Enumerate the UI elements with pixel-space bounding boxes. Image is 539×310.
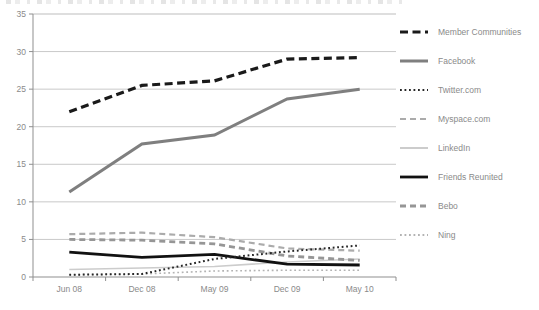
legend-swatch-linkedin-line	[399, 144, 429, 152]
y-tick-label: 20	[17, 122, 27, 132]
chart-legend: Member CommunitiesFacebookTwitter.comMys…	[399, 17, 539, 249]
legend-item-friends-reunited: Friends Reunited	[399, 162, 539, 191]
legend-item-member-communities: Member Communities	[399, 17, 539, 46]
legend-label: Twitter.com	[438, 85, 481, 95]
legend-label: LinkedIn	[438, 143, 470, 153]
y-tick-label: 30	[17, 47, 27, 57]
legend-swatch-ning-line	[399, 231, 429, 239]
legend-item-bebo: Bebo	[399, 191, 539, 220]
legend-item-twitter-com: Twitter.com	[399, 75, 539, 104]
x-tick-label: Dec 08	[128, 284, 155, 294]
legend-label: Member Communities	[438, 27, 521, 37]
y-axis-labels: 05101520253035	[17, 9, 27, 282]
y-tick-label: 35	[17, 9, 27, 19]
legend-swatch-facebook-line	[399, 57, 429, 65]
gridlines	[33, 14, 396, 239]
legend-label: Ning	[438, 230, 455, 240]
legend-item-linkedin: LinkedIn	[399, 133, 539, 162]
legend-swatch-bebo-line	[399, 202, 429, 210]
legend-label: Friends Reunited	[438, 172, 503, 182]
legend-item-facebook: Facebook	[399, 46, 539, 75]
legend-swatch-friends-reunited-line	[399, 173, 429, 181]
x-tick-label: May 10	[346, 284, 374, 294]
legend-item-myspace-com: Myspace.com	[399, 104, 539, 133]
y-tick-label: 0	[21, 272, 26, 282]
y-tick-label: 25	[17, 84, 27, 94]
legend-swatch-member-communities-line	[399, 28, 429, 36]
x-tick-label: Dec 09	[274, 284, 301, 294]
x-axis-labels: Jun 08Dec 08May 09Dec 09May 10	[57, 284, 374, 294]
y-tick-label: 10	[17, 197, 27, 207]
legend-label: Myspace.com	[438, 114, 490, 124]
x-tick-label: May 09	[201, 284, 229, 294]
chart-page: { "colors": { "background": "#ffffff", "…	[0, 0, 539, 310]
legend-item-ning: Ning	[399, 220, 539, 249]
series-line-facebook	[69, 89, 359, 192]
series-line-myspace-com	[69, 233, 359, 251]
y-tick-label: 15	[17, 159, 27, 169]
legend-swatch-myspace-com-line	[399, 115, 429, 123]
legend-swatch-twitter-com-line	[399, 86, 429, 94]
series-line-ning	[69, 270, 359, 275]
series-lines	[69, 58, 359, 275]
legend-label: Bebo	[438, 201, 458, 211]
legend-label: Facebook	[438, 56, 475, 66]
y-tick-label: 5	[21, 234, 26, 244]
series-line-member-communities	[69, 58, 359, 112]
series-line-friends-reunited	[69, 252, 359, 265]
line-chart: 05101520253035Jun 08Dec 08May 09Dec 09Ma…	[0, 0, 400, 310]
x-tick-label: Jun 08	[57, 284, 83, 294]
